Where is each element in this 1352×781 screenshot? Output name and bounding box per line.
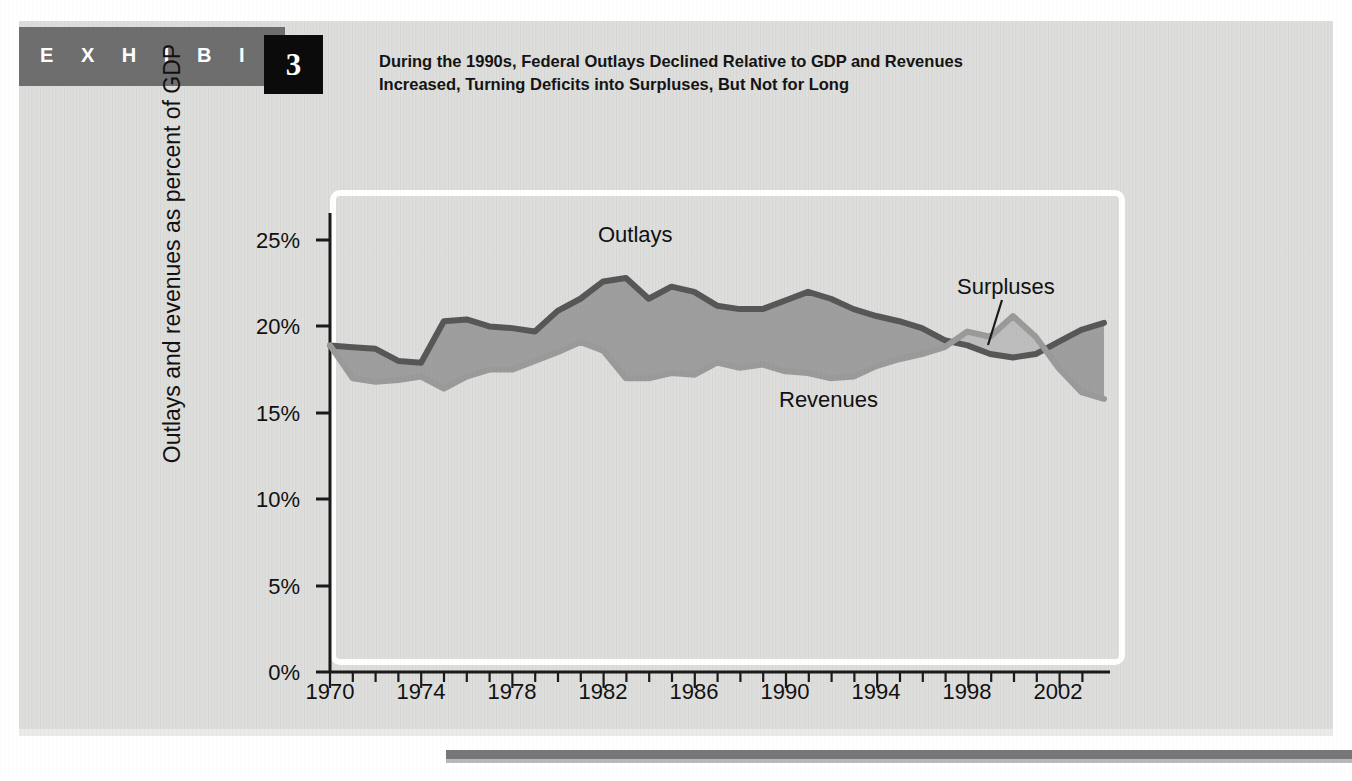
x-axis-ticks xyxy=(330,672,1082,688)
footer-rule-shadow xyxy=(446,759,1352,763)
surplus-area xyxy=(952,316,1045,357)
panel-bottom-shadow xyxy=(19,729,1333,736)
chart-plot-group xyxy=(316,213,1110,688)
chart-container: Outlays and revenues as percent of GDP 2… xyxy=(0,0,1314,708)
footer-rule xyxy=(446,750,1352,759)
chart-svg xyxy=(0,0,1314,708)
y-axis-ticks xyxy=(316,240,330,672)
exhibit-page: E X H I B I T 3 During the 1990s, Federa… xyxy=(0,0,1352,781)
